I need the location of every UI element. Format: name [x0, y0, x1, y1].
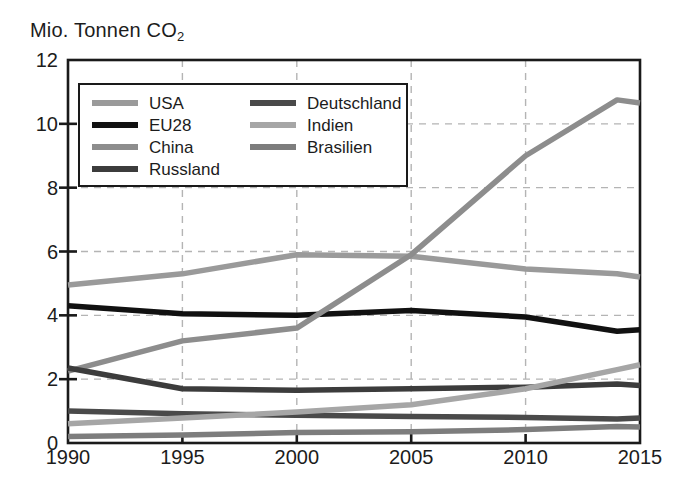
legend-swatch-icon — [92, 122, 138, 128]
x-tick-label: 2005 — [389, 446, 434, 469]
y-tick-label: 4 — [14, 304, 58, 327]
y-tick-label: 10 — [14, 112, 58, 135]
legend-column-left: USAEU28ChinaRussland — [92, 92, 220, 180]
legend-swatch-icon — [250, 122, 296, 128]
legend-item-usa[interactable]: USA — [92, 92, 220, 114]
x-tick-label: 2015 — [618, 446, 663, 469]
co2-line-chart: Mio. Tonnen CO2 024681012 19901995200020… — [0, 0, 687, 488]
legend-item-label: Brasilien — [307, 139, 372, 156]
legend: USAEU28ChinaRussland DeutschlandIndienBr… — [78, 83, 408, 187]
x-tick-label: 1995 — [160, 446, 205, 469]
legend-swatch-icon — [92, 166, 138, 172]
legend-item-brasilien[interactable]: Brasilien — [250, 136, 402, 158]
legend-swatch-icon — [250, 100, 296, 106]
series-line-brasilien — [68, 426, 640, 436]
plot-canvas — [0, 0, 687, 488]
y-tick-label: 2 — [14, 368, 58, 391]
legend-swatch-icon — [250, 144, 296, 150]
legend-swatch-icon — [92, 144, 138, 150]
legend-item-russland[interactable]: Russland — [92, 158, 220, 180]
y-tick-label: 8 — [14, 176, 58, 199]
legend-swatch-icon — [92, 100, 138, 106]
x-tick-label: 1990 — [46, 446, 91, 469]
legend-item-label: Indien — [307, 117, 353, 134]
legend-column-right: DeutschlandIndienBrasilien — [250, 92, 402, 158]
legend-item-deutschland[interactable]: Deutschland — [250, 92, 402, 114]
legend-item-indien[interactable]: Indien — [250, 114, 402, 136]
legend-item-label: USA — [149, 95, 184, 112]
x-tick-label: 2010 — [503, 446, 548, 469]
legend-item-china[interactable]: China — [92, 136, 220, 158]
legend-item-label: Deutschland — [307, 95, 402, 112]
y-tick-label: 6 — [14, 240, 58, 263]
legend-item-label: China — [149, 139, 193, 156]
y-tick-label: 12 — [14, 49, 58, 72]
series-line-usa — [68, 255, 640, 285]
legend-item-eu28[interactable]: EU28 — [92, 114, 220, 136]
legend-item-label: Russland — [149, 161, 220, 178]
x-tick-label: 2000 — [275, 446, 320, 469]
legend-item-label: EU28 — [149, 117, 192, 134]
series-line-eu28 — [68, 306, 640, 332]
